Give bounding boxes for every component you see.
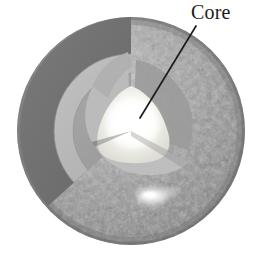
sphere-diagram-canvas bbox=[0, 0, 264, 266]
core-hotspot bbox=[119, 109, 143, 131]
star-interior-cutaway-figure: Core bbox=[0, 0, 264, 266]
core-label: Core bbox=[191, 1, 231, 23]
